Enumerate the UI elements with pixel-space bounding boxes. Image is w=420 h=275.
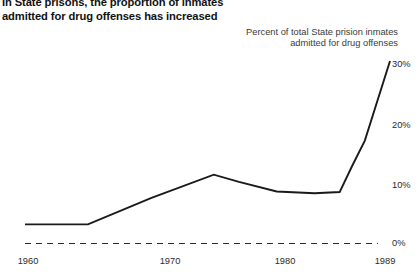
y-tick-0: 0% (392, 238, 405, 248)
x-tick-1970: 1970 (160, 256, 181, 266)
chart-page: In State prisons, the proportion of inma… (0, 0, 420, 275)
x-tick-1960: 1960 (18, 256, 39, 266)
plot-area (0, 0, 420, 275)
y-tick-20: 20% (392, 120, 411, 130)
y-tick-30: 30% (392, 59, 411, 69)
x-tick-1980: 1980 (275, 256, 296, 266)
y-tick-10: 10% (392, 180, 411, 190)
data-line (25, 61, 390, 224)
x-tick-1989: 1989 (375, 256, 396, 266)
